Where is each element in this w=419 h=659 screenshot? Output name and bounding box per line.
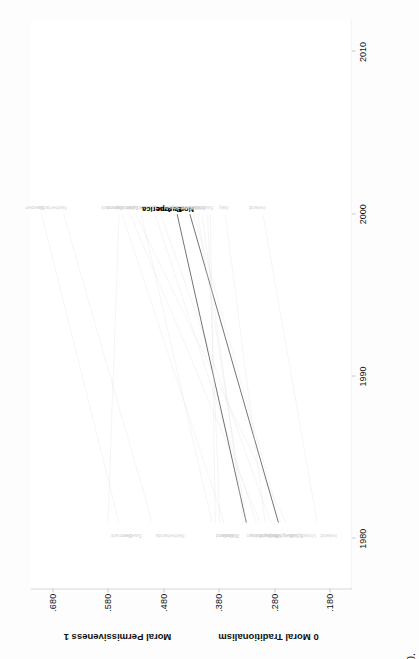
series-label-britain: Britain bbox=[247, 532, 262, 538]
trend-lines bbox=[31, 20, 352, 588]
chart-area: Moral Permissiveness 1 0 Moral Tradition… bbox=[23, 10, 398, 650]
trend-line-w-germany bbox=[198, 214, 247, 522]
figure-caption: FIGURE 2.2. Moral Permissiveness (Trend … bbox=[405, 653, 417, 659]
series-label-italy: Italy bbox=[268, 532, 278, 538]
y-tick-180: .180 bbox=[324, 594, 334, 644]
trend-line-belgium bbox=[161, 214, 271, 522]
figure-source-text: World Values Survey, 1981–2000. bbox=[405, 653, 417, 659]
trend-line-ireland bbox=[263, 214, 317, 522]
series-label-netherlands: Netherlands bbox=[38, 205, 67, 211]
plot-region: SwedenNetherlandsDenmarkIcelandNorwaySpa… bbox=[31, 20, 352, 588]
y-tick-680: .680 bbox=[48, 594, 58, 644]
figure-page: Moral Permissiveness 1 0 Moral Tradition… bbox=[0, 0, 419, 659]
trend-line-france bbox=[208, 214, 220, 522]
trend-line-europe bbox=[177, 214, 246, 522]
y-axis-label-group: Moral Permissiveness 1 0 Moral Tradition… bbox=[31, 631, 352, 632]
trend-line-sweden bbox=[42, 214, 119, 522]
series-label-ireland: Ireland bbox=[320, 532, 337, 538]
series-label-sweden: Sweden bbox=[218, 532, 237, 538]
series-label-ireland: Ireland bbox=[249, 205, 266, 211]
trend-line-canada bbox=[155, 214, 256, 522]
y-axis-line bbox=[31, 589, 352, 590]
series-label-italy: Italy bbox=[218, 205, 228, 211]
y-tick-480: .480 bbox=[158, 594, 168, 644]
x-tick-2000: 2000 bbox=[358, 204, 368, 224]
trend-line-denmark bbox=[108, 214, 119, 522]
y-tick-580: .580 bbox=[103, 594, 113, 644]
trend-line-norway bbox=[130, 214, 260, 522]
y-axis-label-top: Moral Permissiveness 1 bbox=[63, 632, 171, 643]
series-label-sweden: Sweden bbox=[194, 205, 213, 211]
trend-line-north-america bbox=[190, 214, 279, 522]
y-tick-380: .380 bbox=[214, 594, 224, 644]
series-label-united-states: United States bbox=[284, 532, 316, 538]
trend-line-netherlands bbox=[64, 214, 153, 522]
trend-line-finland bbox=[141, 214, 212, 522]
y-tick-280: .280 bbox=[269, 594, 279, 644]
series-label-netherlands: Netherlands bbox=[155, 532, 184, 538]
x-tick-2010: 2010 bbox=[358, 42, 368, 62]
series-label-denmark: Denmark bbox=[111, 532, 133, 538]
trend-line-italy bbox=[225, 214, 265, 522]
trend-line-spain bbox=[136, 214, 287, 522]
x-tick-1990: 1990 bbox=[358, 367, 368, 387]
trend-line-iceland bbox=[122, 214, 224, 522]
trend-line-sweden-alt bbox=[210, 214, 215, 522]
x-tick-1980: 1980 bbox=[358, 529, 368, 549]
